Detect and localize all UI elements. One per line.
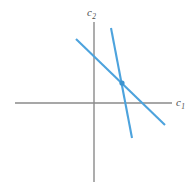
vertical-axis-label-subscript: 2: [92, 12, 96, 21]
intersection-point-marker: [119, 80, 124, 85]
horizontal-axis-label: c1: [176, 97, 185, 108]
budget-lines-figure: c2 c1: [0, 0, 195, 194]
vertical-axis-label: c2: [87, 7, 96, 18]
horizontal-axis-label-subscript: 1: [181, 102, 185, 111]
plot-canvas: [0, 0, 195, 194]
